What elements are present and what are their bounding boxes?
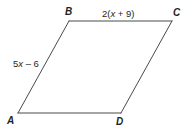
- vertex-label-d: D: [116, 117, 123, 127]
- side-label-bc: 2(x + 9): [102, 9, 134, 19]
- vertex-label-a: A: [7, 116, 14, 126]
- side-label-ab: 5x – 6: [13, 59, 39, 69]
- side-label-bc-suffix: + 9): [115, 8, 134, 19]
- side-label-ab-suffix: – 6: [23, 58, 39, 69]
- geometry-figure-parallelogram-abcd: A B C D 2(x + 9) 5x – 6: [0, 0, 187, 134]
- edge-cd-line: [121, 21, 172, 113]
- vertex-label-c: C: [173, 8, 180, 18]
- vertex-label-b: B: [65, 7, 72, 17]
